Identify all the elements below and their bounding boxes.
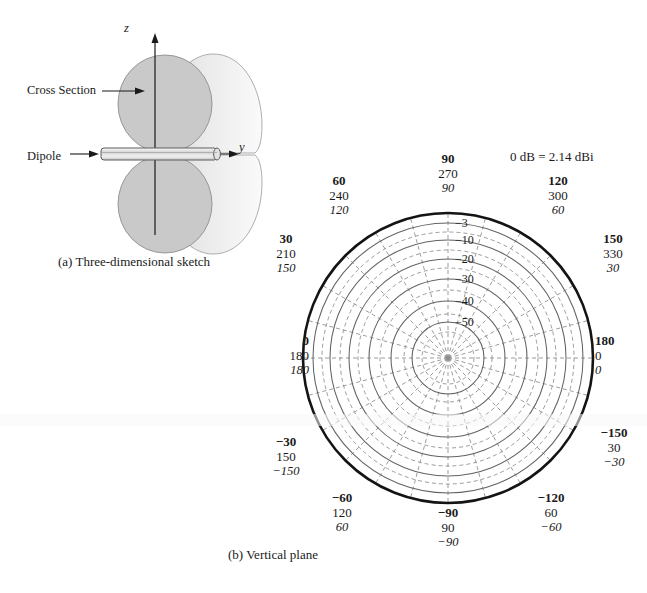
- angle-left-lower-tier3: −150: [257, 464, 315, 478]
- angle-right-lower-tier1: −150: [585, 426, 643, 441]
- angle-upper-right-tier1: 120: [532, 174, 584, 189]
- angle-right-upper-tier3: 30: [587, 261, 639, 275]
- angle-label-lower-right: −120 60 −60: [522, 491, 580, 535]
- angle-label-lower-left: −60 120 60: [317, 491, 367, 535]
- radial-tick-minus-50: −50: [455, 315, 474, 329]
- vertical-plane-polar-panel: −3 −10 −20 −30 −40 −50 0 dB = 2.14 dBi 9…: [255, 148, 647, 593]
- angle-right-lower-tier3: −30: [585, 455, 643, 469]
- angle-top-tier2: 270: [414, 167, 482, 182]
- angle-label-upper-right: 120 300 60: [532, 174, 584, 218]
- angle-label-right-lower: −150 30 −30: [585, 426, 643, 470]
- angle-left-tier2: 180: [257, 349, 309, 364]
- angle-right-tier1: 180: [595, 334, 647, 349]
- radial-tick-minus-30: −30: [455, 272, 474, 286]
- gain-reference-annotation: 0 dB = 2.14 dBi: [510, 150, 594, 164]
- axis-y-label: y: [239, 141, 245, 154]
- angle-label-right: 180 0 0: [595, 334, 647, 378]
- angle-left-upper-tier2: 210: [261, 247, 311, 262]
- angle-label-left-lower: −30 150 −150: [257, 435, 315, 479]
- angle-label-bottom: −90 90 −90: [414, 506, 482, 550]
- radial-tick-minus-40: −40: [455, 294, 474, 308]
- angle-label-left: 0 180 180: [257, 334, 309, 378]
- radial-tick-minus-3: −3: [455, 216, 468, 230]
- panel-b-caption: (b) Vertical plane: [228, 548, 318, 562]
- angle-bottom-tier3: −90: [414, 535, 482, 549]
- angle-lower-right-tier2: 60: [522, 506, 580, 521]
- angle-top-tier3: 90: [414, 181, 482, 195]
- radial-tick-minus-10: −10: [455, 233, 474, 247]
- angle-lower-right-tier3: −60: [522, 520, 580, 534]
- angle-right-lower-tier2: 30: [585, 441, 643, 456]
- axis-z-label: z: [124, 22, 129, 35]
- dipole-rod: [101, 148, 220, 160]
- angle-right-upper-tier2: 330: [587, 247, 639, 262]
- angle-bottom-tier2: 90: [414, 521, 482, 536]
- cross-section-label: Cross Section: [27, 84, 96, 97]
- radial-tick-minus-20: −20: [455, 252, 474, 266]
- figure-root: Cross Section Dipole z y (a) Three-dimen…: [0, 0, 647, 593]
- panel-a-caption: (a) Three-dimensional sketch: [58, 255, 210, 269]
- angle-upper-right-tier3: 60: [532, 203, 584, 217]
- angle-right-tier3: 0: [595, 363, 647, 377]
- angle-lower-left-tier1: −60: [317, 491, 367, 506]
- angle-left-tier3: 180: [257, 363, 309, 377]
- angle-label-left-upper: 30 210 150: [261, 232, 311, 276]
- angle-left-upper-tier1: 30: [261, 232, 311, 247]
- angle-upper-left-tier2: 240: [314, 189, 364, 204]
- angle-lower-left-tier2: 120: [317, 506, 367, 521]
- angle-top-tier1: 90: [414, 152, 482, 167]
- angle-label-right-upper: 150 330 30: [587, 232, 639, 276]
- angle-label-top: 90 270 90: [414, 152, 482, 196]
- angle-right-upper-tier1: 150: [587, 232, 639, 247]
- angle-lower-left-tier3: 60: [317, 520, 367, 534]
- angle-left-upper-tier3: 150: [261, 261, 311, 275]
- angle-upper-right-tier2: 300: [532, 189, 584, 204]
- angle-left-tier1: 0: [257, 334, 309, 349]
- angle-label-upper-left: 60 240 120: [314, 174, 364, 218]
- dipole-leader-line: [70, 151, 99, 158]
- dipole-label: Dipole: [27, 150, 61, 163]
- angle-left-lower-tier1: −30: [257, 435, 315, 450]
- angle-bottom-tier1: −90: [414, 506, 482, 521]
- angle-upper-left-tier1: 60: [314, 174, 364, 189]
- angular-gridlines: [303, 213, 593, 503]
- angle-right-tier2: 0: [595, 349, 647, 364]
- angle-left-lower-tier2: 150: [257, 450, 315, 465]
- angle-upper-left-tier3: 120: [314, 203, 364, 217]
- radial-tick-labels: −3 −10 −20 −30 −40 −50: [455, 216, 474, 329]
- angle-lower-right-tier1: −120: [522, 491, 580, 506]
